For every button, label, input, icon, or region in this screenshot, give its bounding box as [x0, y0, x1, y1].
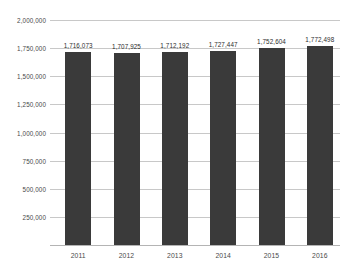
x-axis: 201120122013201420152016 [50, 252, 340, 268]
y-axis: 250,000500,000750,0001,000,0001,250,0001… [0, 0, 50, 276]
bar[interactable] [307, 46, 333, 245]
x-axis-tick-label: 2012 [119, 252, 135, 259]
plot-area: 1,716,0731,707,9251,712,1921,727,4471,75… [50, 0, 340, 276]
x-axis-tick-label: 2013 [167, 252, 183, 259]
y-axis-tick-label: 1,250,000 [17, 101, 46, 108]
x-axis-tick-label: 2014 [215, 252, 231, 259]
y-axis-tick-label: 1,750,000 [17, 45, 46, 52]
bar-value-label: 1,727,447 [209, 41, 238, 48]
bar-value-label: 1,707,925 [112, 43, 141, 50]
x-axis-tick-label: 2015 [264, 252, 280, 259]
y-axis-tick-label: 750,000 [23, 157, 46, 164]
bar-value-label: 1,712,192 [160, 42, 189, 49]
x-axis-tick-label: 2011 [71, 252, 86, 259]
bar[interactable] [65, 52, 91, 245]
bar[interactable] [162, 52, 188, 245]
bar-chart: 250,000500,000750,0001,000,0001,250,0001… [0, 0, 349, 276]
bar-value-label: 1,716,073 [64, 42, 93, 49]
y-axis-tick-label: 250,000 [23, 213, 46, 220]
bar[interactable] [259, 48, 285, 245]
y-axis-tick-label: 1,000,000 [17, 129, 46, 136]
y-axis-tick-label: 2,000,000 [17, 17, 46, 24]
bar[interactable] [210, 51, 236, 245]
bar-value-label: 1,772,498 [305, 36, 334, 43]
bar[interactable] [114, 53, 140, 245]
bar-value-label: 1,752,604 [257, 38, 286, 45]
y-axis-tick-label: 500,000 [23, 185, 46, 192]
y-axis-tick-label: 1,500,000 [17, 73, 46, 80]
x-axis-tick-label: 2016 [312, 252, 328, 259]
